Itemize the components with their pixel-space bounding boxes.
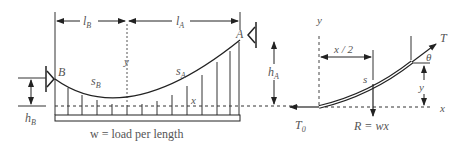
hangers: [55, 42, 239, 115]
fbd-x-axis-label: x: [439, 102, 445, 114]
T-arrow: [412, 44, 436, 62]
deck: [55, 115, 240, 121]
point-B-label: B: [58, 65, 66, 79]
T-label: T: [440, 31, 448, 45]
theta-label: θ: [426, 51, 432, 63]
right-free-body-figure: y x x / 2 s R = wx T0 T θ y: [290, 14, 448, 134]
load-caption: w = load per length: [90, 127, 183, 141]
cable-curve: [55, 40, 240, 98]
x-axis-label: x: [190, 94, 196, 106]
support-A: [248, 22, 256, 48]
left-cable-figure: lB lA y x: [18, 12, 300, 141]
cable-diagram: lB lA y x: [0, 0, 465, 150]
sA-label: sA: [176, 64, 186, 80]
T0-label: T0: [295, 118, 306, 134]
support-B: [46, 66, 54, 92]
hB-label: hB: [25, 111, 36, 127]
y-height-label: y: [418, 81, 424, 93]
s-label: s: [363, 73, 367, 85]
fbd-y-axis-label: y: [316, 14, 322, 26]
y-axis-label: y: [123, 55, 129, 67]
resultant-label: R = wx: [353, 119, 389, 133]
half-x-label: x / 2: [333, 43, 353, 55]
point-A-label: A: [235, 27, 244, 41]
sB-label: sB: [91, 74, 101, 90]
